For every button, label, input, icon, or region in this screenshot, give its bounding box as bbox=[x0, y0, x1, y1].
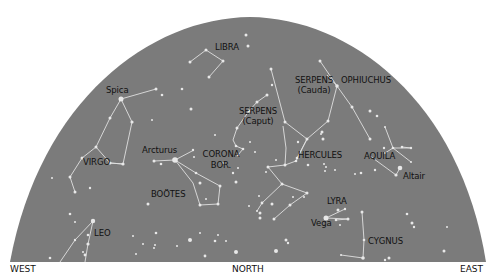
star bbox=[205, 49, 208, 52]
star bbox=[247, 45, 250, 48]
star bbox=[361, 256, 365, 260]
star bbox=[335, 219, 338, 222]
star bbox=[89, 187, 91, 189]
star bbox=[413, 226, 415, 228]
star bbox=[234, 250, 238, 254]
star bbox=[176, 245, 178, 247]
star bbox=[199, 204, 202, 207]
star bbox=[160, 163, 163, 166]
star bbox=[306, 192, 309, 195]
star bbox=[153, 247, 155, 249]
star bbox=[219, 185, 222, 188]
star bbox=[188, 238, 192, 242]
star bbox=[86, 242, 89, 245]
sky-chart bbox=[0, 0, 495, 280]
star bbox=[267, 166, 270, 169]
star bbox=[199, 232, 201, 234]
star bbox=[374, 169, 376, 171]
label-serpens-cauda: SERPENS (Cauda) bbox=[289, 76, 339, 94]
label-aquila: AQUILA bbox=[364, 152, 395, 161]
star bbox=[281, 183, 284, 186]
star bbox=[265, 171, 267, 173]
star bbox=[410, 161, 412, 163]
star bbox=[284, 164, 287, 167]
star bbox=[295, 160, 298, 163]
star bbox=[245, 34, 248, 37]
star bbox=[363, 239, 366, 242]
star bbox=[297, 141, 299, 143]
star bbox=[289, 204, 292, 207]
star bbox=[446, 226, 448, 228]
label-leo: LEO bbox=[94, 229, 111, 238]
star bbox=[347, 218, 350, 221]
star bbox=[344, 208, 346, 210]
star bbox=[271, 203, 274, 206]
star bbox=[443, 250, 446, 253]
label-serpens-cauda-line1: SERPENS bbox=[289, 76, 339, 85]
star bbox=[151, 119, 153, 121]
star bbox=[153, 160, 156, 163]
star bbox=[339, 224, 341, 226]
star bbox=[69, 213, 72, 216]
label-serpens-caput-line1: SERPENS bbox=[232, 107, 284, 116]
star bbox=[303, 196, 305, 198]
star bbox=[130, 120, 133, 123]
star bbox=[320, 133, 322, 135]
label-serpens-cauda-line2: (Cauda) bbox=[289, 86, 339, 95]
star bbox=[270, 68, 273, 71]
star bbox=[334, 169, 336, 171]
star bbox=[259, 217, 262, 220]
star bbox=[222, 60, 225, 63]
label-hercules: HERCULES bbox=[298, 151, 342, 160]
star bbox=[327, 120, 330, 123]
star bbox=[74, 239, 76, 241]
label-corona-line1: CORONA bbox=[198, 150, 244, 159]
star bbox=[376, 115, 379, 118]
star bbox=[214, 134, 216, 136]
star bbox=[235, 145, 238, 148]
star bbox=[109, 117, 112, 120]
star bbox=[204, 255, 207, 258]
star bbox=[84, 254, 87, 257]
label-libra: LIBRA bbox=[215, 43, 239, 52]
star bbox=[369, 138, 372, 141]
star bbox=[275, 159, 277, 161]
star bbox=[235, 181, 238, 184]
label-virgo: VIRGO bbox=[83, 158, 110, 167]
star bbox=[208, 76, 211, 79]
star bbox=[132, 235, 134, 237]
star bbox=[285, 239, 288, 242]
direction-north: NORTH bbox=[232, 265, 264, 274]
star bbox=[306, 138, 308, 140]
label-bootes: BOÖTES bbox=[151, 190, 185, 199]
star bbox=[74, 221, 76, 223]
star bbox=[410, 147, 412, 149]
star bbox=[274, 249, 278, 253]
star bbox=[161, 94, 164, 97]
star bbox=[384, 259, 386, 261]
star bbox=[398, 166, 403, 171]
star bbox=[192, 149, 194, 151]
star bbox=[199, 182, 202, 185]
star bbox=[69, 176, 72, 179]
star bbox=[401, 146, 404, 149]
star bbox=[147, 203, 150, 206]
star bbox=[360, 172, 363, 175]
star bbox=[271, 84, 273, 86]
star bbox=[214, 240, 217, 243]
star bbox=[406, 213, 409, 216]
star bbox=[319, 60, 322, 63]
star bbox=[325, 166, 327, 168]
label-arcturus: Arcturus bbox=[142, 146, 177, 155]
star bbox=[190, 108, 193, 111]
star bbox=[172, 157, 178, 163]
star bbox=[189, 61, 192, 64]
star bbox=[411, 222, 414, 225]
star bbox=[337, 209, 340, 212]
sky-dome bbox=[10, 17, 486, 262]
star bbox=[154, 244, 156, 246]
star bbox=[392, 147, 395, 150]
star bbox=[259, 212, 262, 215]
star bbox=[181, 88, 184, 91]
star bbox=[369, 110, 372, 113]
